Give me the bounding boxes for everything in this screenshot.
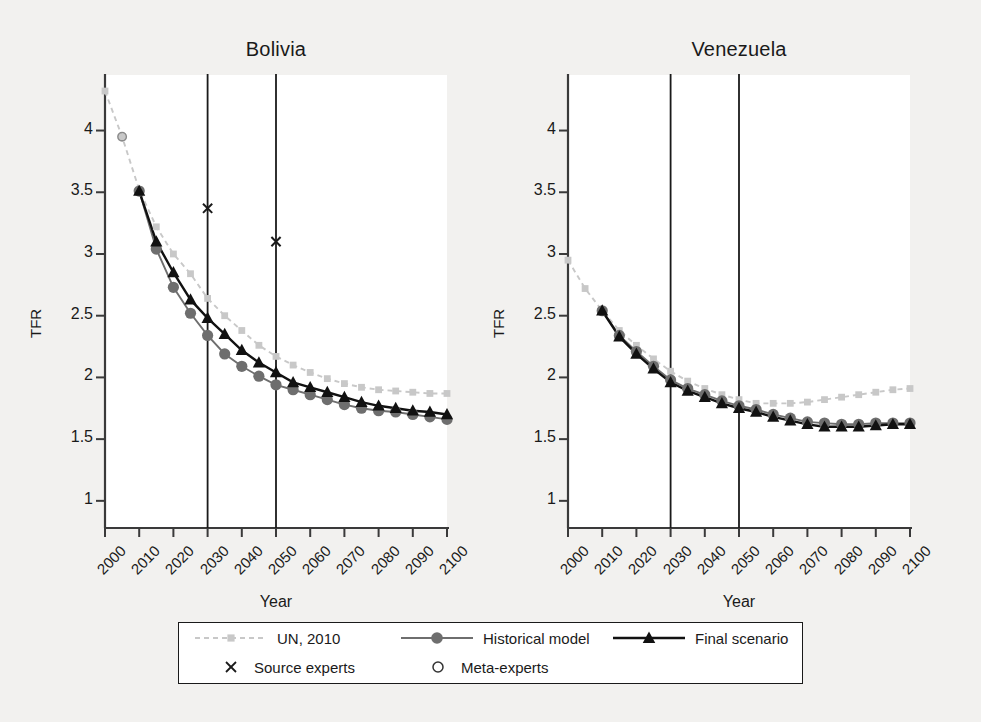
y-tick-label: 3 <box>41 243 93 261</box>
legend-label-final-scenario: Final scenario <box>695 630 788 647</box>
y-tick-label: 1 <box>41 490 93 508</box>
y-tick-label: 1.5 <box>504 428 556 446</box>
source-experts-key-icon <box>216 656 246 678</box>
y-tick-label: 1.5 <box>41 428 93 446</box>
legend-label-source-experts: Source experts <box>254 659 355 676</box>
historical-model-key-icon <box>399 627 475 649</box>
y-tick-label: 1 <box>504 490 556 508</box>
legend-label-meta-experts: Meta-experts <box>461 659 549 676</box>
y-tick-label: 4 <box>41 120 93 138</box>
y-tick-label: 2.5 <box>504 305 556 323</box>
legend-row-2: Source experts Meta-experts <box>179 653 802 681</box>
meta-experts-key-icon <box>423 656 453 678</box>
y-tick-label: 3 <box>504 243 556 261</box>
figure-root: Bolivia TFR Year Venezuela TFR Year UN, … <box>0 0 981 722</box>
y-tick-label: 2 <box>41 366 93 384</box>
y-tick-label: 2 <box>504 366 556 384</box>
legend-item-source-experts: Source experts <box>216 653 355 681</box>
legend: UN, 2010 Historical model Final scenario… <box>178 622 803 684</box>
y-tick-label: 2.5 <box>41 305 93 323</box>
plot-area-venezuela <box>0 0 981 722</box>
legend-label-un-2010: UN, 2010 <box>277 630 340 647</box>
legend-item-meta-experts: Meta-experts <box>423 653 549 681</box>
legend-item-final-scenario: Final scenario <box>611 624 788 652</box>
legend-label-historical-model: Historical model <box>483 630 590 647</box>
legend-item-historical-model: Historical model <box>399 624 590 652</box>
y-tick-label: 3.5 <box>504 181 556 199</box>
legend-row-1: UN, 2010 Historical model Final scenario <box>179 624 802 652</box>
un-2010-key-icon <box>193 627 269 649</box>
legend-item-un-2010: UN, 2010 <box>193 624 340 652</box>
y-tick-label: 4 <box>504 120 556 138</box>
final-scenario-key-icon <box>611 627 687 649</box>
y-tick-label: 3.5 <box>41 181 93 199</box>
